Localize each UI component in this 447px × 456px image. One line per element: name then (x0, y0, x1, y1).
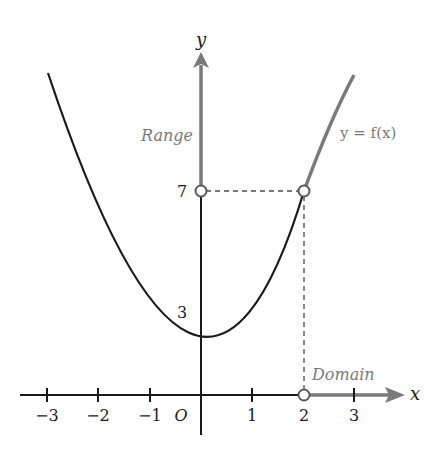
x-tick-label: 3 (349, 406, 359, 425)
range-label: Range (140, 126, 193, 145)
open-point-range (196, 186, 207, 197)
x-tick-label: −3 (35, 406, 59, 425)
x-tick-label: 2 (299, 406, 309, 425)
y-axis-label: y (195, 29, 207, 50)
function-diagram: y x −3 −2 −1 O 1 2 3 7 3 Range Domain y … (0, 0, 447, 456)
origin-label: O (174, 406, 187, 425)
x-axis-label: x (410, 383, 420, 404)
domain-label: Domain (311, 365, 375, 384)
open-point-domain (299, 390, 310, 401)
y-tick-label: 3 (177, 303, 187, 322)
x-tick-label: 1 (247, 406, 257, 425)
x-tick-label: −2 (86, 406, 110, 425)
x-tick-label: −1 (138, 406, 162, 425)
parabola-curve (48, 73, 304, 337)
function-label: y = f(x) (339, 124, 396, 142)
open-point-curve (299, 186, 310, 197)
y-tick-label: 7 (177, 182, 187, 201)
